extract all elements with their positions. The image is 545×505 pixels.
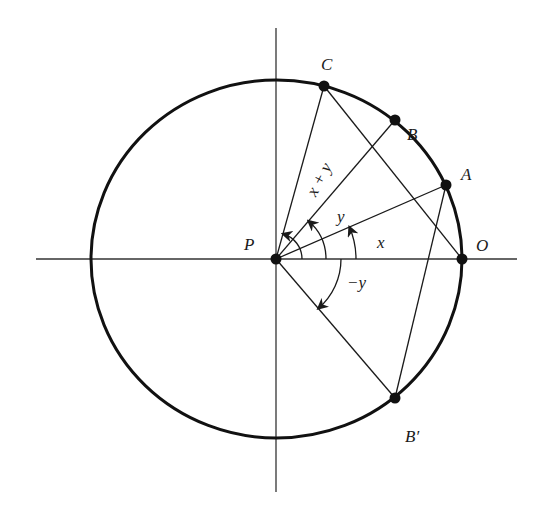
point-p — [271, 254, 282, 265]
point-b — [390, 115, 401, 126]
angle-arc-y — [309, 221, 327, 259]
point-label-c: C — [321, 55, 333, 74]
angle-label-x: x — [376, 233, 385, 252]
angle-addition-diagram: POABCB′ x y x + y −y — [0, 0, 545, 505]
angle-label-y: y — [335, 207, 345, 226]
point-c — [319, 81, 330, 92]
chord-CO — [324, 86, 462, 259]
point-o — [457, 254, 468, 265]
angle-arc-x — [349, 227, 356, 259]
radius-PBp — [276, 259, 395, 398]
point-a — [441, 180, 452, 191]
angle-label-minus-y: −y — [347, 273, 366, 292]
diagram-canvas: POABCB′ x y x + y −y — [0, 0, 545, 505]
points-group: POABCB′ — [243, 55, 488, 446]
point-bp — [390, 393, 401, 404]
angle-arc-minus-y — [318, 259, 341, 308]
chord-ABp — [395, 185, 446, 398]
point-label-bp: B′ — [405, 427, 419, 446]
radius-PA — [276, 185, 446, 259]
point-label-o: O — [476, 236, 488, 255]
point-label-p: P — [243, 235, 254, 254]
point-label-b: B — [407, 125, 418, 144]
point-label-a: A — [460, 165, 472, 184]
